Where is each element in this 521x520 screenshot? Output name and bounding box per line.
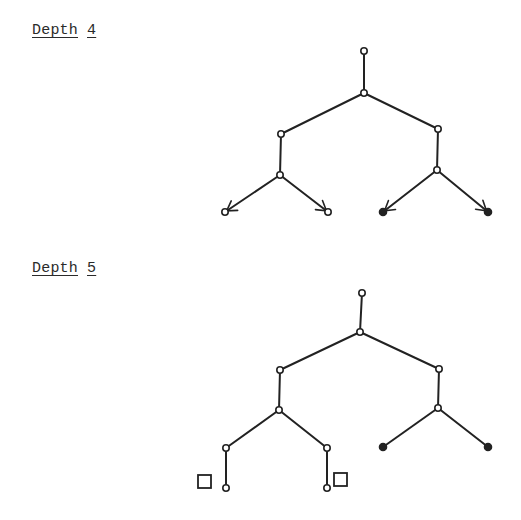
tree-edge xyxy=(364,93,438,129)
open-node-icon xyxy=(357,329,363,335)
tree-edge xyxy=(360,332,439,369)
open-node-icon xyxy=(222,209,228,215)
tree-edge xyxy=(437,170,488,212)
open-node-icon xyxy=(436,366,442,372)
open-node-icon xyxy=(324,445,330,451)
tree-edge xyxy=(280,332,360,370)
open-node-icon xyxy=(325,209,331,215)
filled-node-icon xyxy=(484,443,491,450)
tree-edge xyxy=(280,134,281,175)
open-node-icon xyxy=(359,290,365,296)
tree-edge xyxy=(279,410,327,448)
open-node-icon xyxy=(223,485,229,491)
game-tree-diagrams xyxy=(0,0,521,520)
open-node-icon xyxy=(435,405,441,411)
open-node-icon xyxy=(361,48,367,54)
open-node-icon xyxy=(277,367,283,373)
open-node-icon xyxy=(324,485,330,491)
tree-edge xyxy=(281,93,364,134)
open-node-icon xyxy=(276,407,282,413)
filled-node-icon xyxy=(484,208,491,215)
filled-node-icon xyxy=(379,208,386,215)
open-node-icon xyxy=(223,445,229,451)
open-node-icon xyxy=(278,131,284,137)
tree-edge xyxy=(226,410,279,448)
tree-edge xyxy=(225,175,280,212)
square-marker-icon xyxy=(198,475,211,488)
tree-edge xyxy=(360,293,362,332)
tree-edge xyxy=(438,369,439,408)
tree-edge xyxy=(383,408,438,447)
open-node-icon xyxy=(435,126,441,132)
open-node-icon xyxy=(361,90,367,96)
tree-edge xyxy=(383,170,437,212)
open-node-icon xyxy=(434,167,440,173)
square-marker-icon xyxy=(334,473,347,486)
filled-node-icon xyxy=(379,443,386,450)
depth-5-tree xyxy=(198,290,492,491)
tree-edge xyxy=(280,175,328,212)
open-node-icon xyxy=(277,172,283,178)
tree-edge xyxy=(438,408,488,447)
tree-edge xyxy=(279,370,280,410)
tree-edge xyxy=(437,129,438,170)
depth-4-tree xyxy=(222,48,492,216)
